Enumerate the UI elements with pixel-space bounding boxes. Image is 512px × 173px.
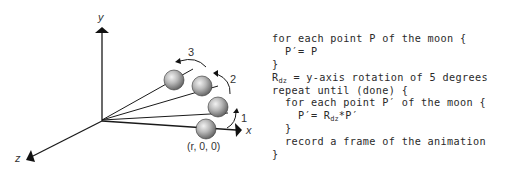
pseudocode-block: for each point P of the moon { P′= P}Rdz…	[272, 33, 488, 162]
x-axis: x	[102, 121, 252, 137]
code-line-2: P′= P	[272, 46, 488, 59]
code-line-5: repeat until (done) {	[272, 85, 488, 98]
code-line-3: }	[272, 59, 488, 72]
step-label-1: 1	[241, 112, 247, 124]
code-line-8: }	[272, 123, 488, 136]
moon-step1	[208, 97, 228, 117]
rotation-arrow-3: 3	[175, 46, 206, 67]
code-line-1: for each point P of the moon {	[272, 33, 488, 46]
rotation-arrow-1: 1	[227, 108, 247, 128]
y-axis: y	[95, 11, 109, 121]
y-axis-label: y	[97, 11, 105, 23]
y-axis-arrowhead-icon	[95, 27, 109, 33]
rotation-arrow-2: 2	[213, 70, 236, 94]
code-line-6: for each point P′ of the moon {	[272, 97, 488, 110]
step-label-3: 3	[188, 46, 194, 58]
x-axis-label: x	[245, 124, 252, 136]
arrow-1-head-icon	[233, 108, 239, 113]
code-line-9: record a frame of the animation	[272, 136, 488, 149]
arrow-2-head-icon	[213, 70, 218, 77]
code-line-4: Rdz = y-axis rotation of 5 degrees	[272, 72, 488, 85]
moon-start	[196, 119, 216, 139]
moon-step3	[164, 70, 184, 90]
moon-step2	[192, 76, 212, 96]
start-position-label: (r, 0, 0)	[187, 140, 220, 152]
z-axis: z	[14, 121, 102, 164]
z-axis-label: z	[14, 152, 21, 164]
step-label-2: 2	[230, 73, 236, 85]
code-line-10: }	[272, 149, 488, 162]
arrow-3-head-icon	[175, 58, 181, 64]
x-axis-arrowhead-icon	[235, 123, 242, 137]
code-line-7: P′= Rdz*P′	[272, 110, 488, 123]
